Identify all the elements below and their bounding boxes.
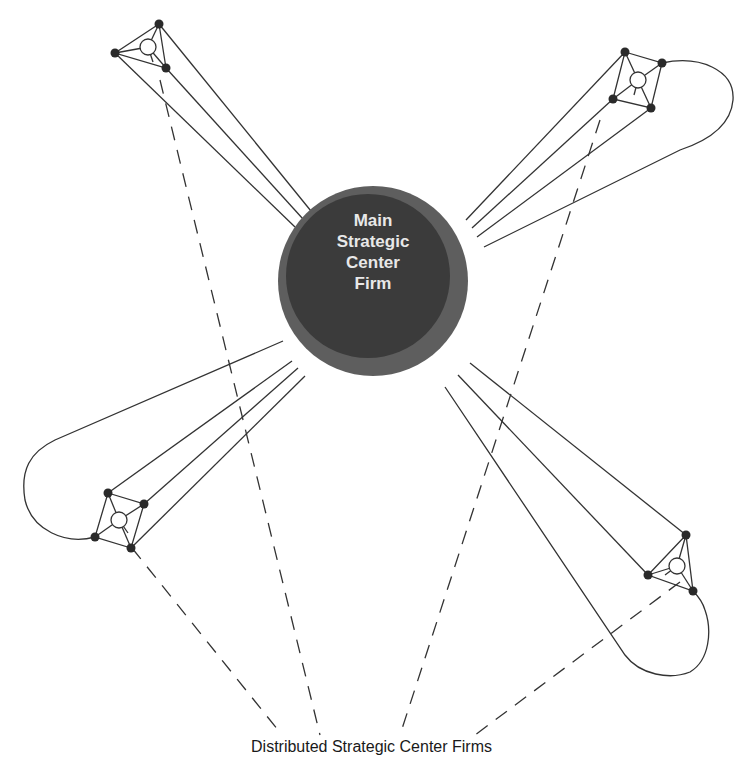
top-right-cluster (613, 52, 662, 108)
top-left-cluster (115, 24, 166, 68)
center-firm-label-line: Strategic (303, 231, 443, 252)
bottom-right-cluster-links (445, 363, 709, 676)
bottom-left-cluster-links (24, 341, 305, 548)
distributed-firms-caption: Distributed Strategic Center Firms (0, 738, 743, 756)
top-right-cluster-links (466, 52, 733, 247)
center-firm-label-line: Firm (303, 273, 443, 294)
center-firm-label-line: Main (303, 210, 443, 231)
center-firm-label-line: Center (303, 252, 443, 273)
bottom-left-cluster (95, 493, 144, 548)
dashed-connectors (132, 80, 680, 735)
network-diagram (0, 0, 743, 768)
center-firm-label: Main Strategic Center Firm (303, 210, 443, 294)
bottom-right-cluster (648, 535, 693, 591)
